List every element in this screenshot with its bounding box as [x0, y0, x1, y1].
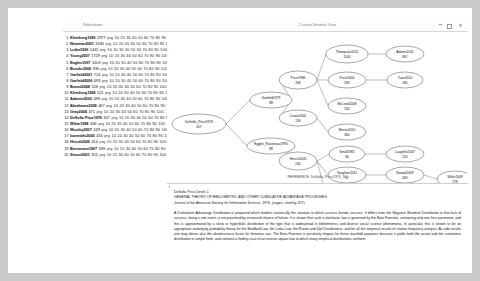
- graph-node-value: 861: [402, 55, 408, 59]
- list-item-name: Simon2001: [70, 152, 90, 158]
- graph-node-value: 278: [452, 180, 458, 183]
- graph-node-value: 268: [295, 81, 301, 85]
- graph-node[interactable]: Nowak2009669: [386, 167, 424, 183]
- detail-source: Journal of the American Society for Info…: [174, 201, 461, 206]
- graph-caption: REFERENCE: DeSolla_Price1976_SC: [288, 175, 348, 179]
- publication-list-title: Publications: [83, 23, 102, 27]
- graph-edge: [317, 80, 328, 106]
- graph-node-value: 88: [269, 101, 273, 105]
- list-item-count: 355: [91, 152, 98, 158]
- publication-list-header: Publications: [63, 20, 167, 32]
- graph-edge: [226, 100, 250, 124]
- citation-graph-svg[interactable]: DeSolla_Price1976457Garfield197988Egghe_…: [167, 32, 467, 183]
- maximize-icon[interactable]: [447, 24, 452, 29]
- graph-node[interactable]: Morris2010460: [328, 124, 366, 140]
- graph-node-value: 280: [402, 81, 408, 85]
- close-icon[interactable]: [459, 24, 462, 27]
- graph-edge: [317, 118, 328, 132]
- application-window: Publications 1 Kleinberg1999 2977 png 10…: [8, 8, 472, 273]
- citation-network-panel: Citation Network View DeSolla_Price19764…: [167, 20, 468, 263]
- publication-list-panel: Publications 1 Kleinberg1999 2977 png 10…: [63, 20, 168, 263]
- graph-node[interactable]: DeSolla_Price1976457: [172, 114, 226, 134]
- graph-node[interactable]: Garfield197988: [250, 92, 292, 108]
- graph-node-value: 1540: [343, 55, 350, 59]
- minimize-icon[interactable]: [439, 24, 442, 28]
- list-item-scale: 10 20 30 40 50 60 70 80 90 100: [107, 152, 167, 158]
- graph-node-value: 246: [295, 162, 301, 166]
- graph-node[interactable]: Thompson20111540: [326, 45, 368, 63]
- graph-node-value: 88: [269, 147, 273, 151]
- graph-node-value: 669: [402, 176, 408, 180]
- citation-network-header: Citation Network View: [167, 20, 468, 32]
- graph-edge: [226, 124, 247, 146]
- graph-node-value: 86: [345, 155, 349, 159]
- detail-abstract: A Cumulative Advantage Distribution is p…: [174, 211, 461, 242]
- graph-node[interactable]: McLeod2008254: [328, 98, 366, 114]
- graph-node[interactable]: Price2004583: [328, 72, 366, 88]
- graph-node[interactable]: Laughlin2007220: [386, 146, 424, 162]
- graph-edge: [317, 154, 329, 161]
- graph-node[interactable]: Egghe_Rousseau199088: [247, 138, 295, 154]
- graph-node[interactable]: Crowe2001136: [279, 110, 317, 126]
- list-item-index: 20: [64, 152, 69, 158]
- graph-node-value: 457: [196, 125, 202, 129]
- detail-divider: [169, 185, 170, 188]
- graph-node[interactable]: Small198186: [329, 146, 365, 162]
- graph-node[interactable]: Price1986268: [279, 71, 317, 89]
- citation-network-title: Citation Network View: [299, 23, 336, 27]
- graph-edge: [317, 54, 326, 80]
- publication-list[interactable]: 1 Kleinberg1999 2977 png 10 20 30 40 50 …: [63, 32, 167, 158]
- graph-node[interactable]: Adams2011861: [386, 46, 424, 62]
- graph-edge: [424, 175, 437, 179]
- graph-node-value: 254: [344, 107, 350, 111]
- list-item-kind: png: [99, 152, 105, 158]
- graph-edge: [317, 161, 328, 175]
- citation-graph[interactable]: DeSolla_Price1976457Garfield197988Egghe_…: [167, 32, 468, 184]
- graph-node-value: 220: [402, 155, 408, 159]
- graph-node[interactable]: Tuan2010280: [387, 72, 423, 88]
- graph-node-value: 460: [344, 133, 350, 137]
- graph-node-value: 583: [344, 81, 350, 85]
- graph-node-value: 136: [295, 119, 301, 123]
- graph-node[interactable]: Weltz2009278: [437, 171, 467, 183]
- publication-detail-pane: DeSolla Price,Derek J. GENERAL THEORY OF…: [167, 184, 468, 263]
- graph-node[interactable]: Hirsch2005246: [279, 152, 317, 170]
- list-item[interactable]: 20 Simon2001 355 png 10 20 30 40 50 60 7…: [64, 152, 167, 158]
